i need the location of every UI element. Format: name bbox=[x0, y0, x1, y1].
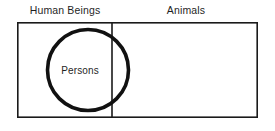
circle-label-persons: Persons bbox=[61, 65, 99, 76]
region-label-animals: Animals bbox=[167, 4, 205, 16]
venn-diagram-container: Human Beings Animals Persons bbox=[0, 0, 275, 131]
universe-rectangle bbox=[18, 23, 257, 117]
venn-diagram-canvas: Human Beings Animals Persons bbox=[0, 0, 275, 131]
region-label-human-beings: Human Beings bbox=[30, 4, 101, 16]
